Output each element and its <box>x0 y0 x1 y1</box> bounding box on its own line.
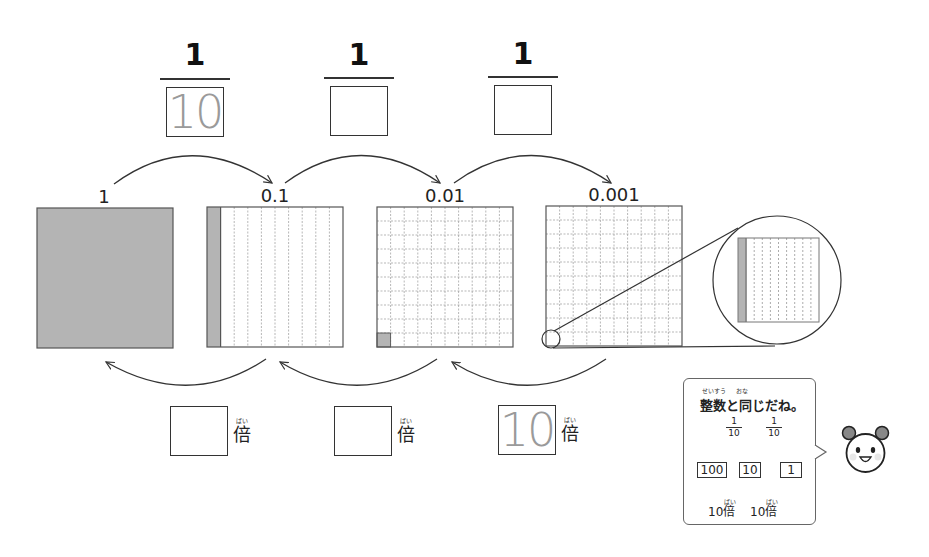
denominator-answer-box[interactable]: 10 <box>166 87 224 137</box>
arrow-left-1 <box>106 359 266 385</box>
bubble-box-10: 10 <box>739 462 761 478</box>
fraction-numerator: 1 <box>339 40 379 70</box>
multiplier-answer-box[interactable]: 10 <box>498 405 556 455</box>
bubble-fraction-1: 110 <box>726 417 742 438</box>
answer-text: 10 <box>168 89 223 135</box>
fraction-numerator: 1 <box>503 39 543 69</box>
fraction-numerator: 1 <box>175 40 215 70</box>
square-thousandths <box>546 206 682 346</box>
hint-speech-bubble: せいすう おな 整数と同じだね。 110 110 100 10 1 ばい ばい … <box>683 378 816 525</box>
fraction-bar <box>160 78 230 80</box>
value-label-0-01: 0.01 <box>405 187 485 205</box>
bubble-pointer <box>814 444 828 462</box>
numerator: 1 <box>771 416 777 426</box>
bubble-box-1: 1 <box>780 462 802 478</box>
furigana: おな <box>736 388 748 394</box>
numerator: 1 <box>731 416 737 426</box>
magnifier-small-circle <box>542 330 560 348</box>
answer-text: 10 <box>500 407 555 453</box>
arrow-left-3 <box>452 359 606 385</box>
times-label: 倍 <box>561 425 579 443</box>
square-tenths <box>207 207 343 347</box>
shaded-tenth <box>207 207 221 347</box>
fraction-bar <box>324 77 394 79</box>
denominator-answer-box[interactable] <box>494 85 552 135</box>
magnifier-large-circle <box>713 216 841 344</box>
times-label: 倍 <box>397 426 415 444</box>
square-one-whole <box>37 208 173 348</box>
value-label-1: 1 <box>64 188 144 206</box>
denominator: 10 <box>728 428 739 438</box>
arrow-right-1 <box>114 156 272 184</box>
multiplier-answer-box[interactable] <box>170 406 228 456</box>
shaded-thousandth <box>738 238 746 322</box>
denominator-answer-box[interactable] <box>330 86 388 136</box>
shaded-hundredth <box>377 333 391 347</box>
bubble-times-label-1: 10倍 <box>708 506 735 518</box>
magnifier-line-top <box>554 228 738 331</box>
times-label: 倍 <box>233 426 251 444</box>
fraction-bar <box>488 76 558 78</box>
arrow-right-3 <box>454 156 611 184</box>
furigana: せいすう <box>702 388 726 394</box>
value-label-0-1: 0.1 <box>235 187 315 205</box>
multiplier-answer-box[interactable] <box>334 406 392 456</box>
value-label-0-001: 0.001 <box>574 186 654 204</box>
bubble-title: 整数と同じだね。 <box>700 395 804 414</box>
mouse-character-icon <box>838 424 894 480</box>
bubble-times-label-2: 10倍 <box>750 506 777 518</box>
arrow-right-2 <box>285 156 440 184</box>
square-hundredths <box>377 207 513 347</box>
bubble-box-100: 100 <box>697 462 727 478</box>
denominator: 10 <box>768 428 779 438</box>
arrow-left-2 <box>280 359 437 385</box>
bubble-fraction-2: 110 <box>766 417 782 438</box>
